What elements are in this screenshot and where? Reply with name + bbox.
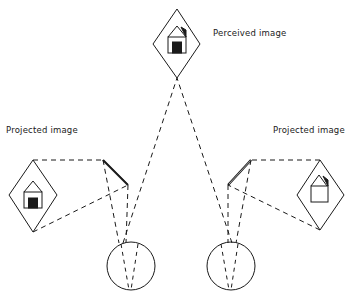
- right-eye: [207, 242, 255, 290]
- stereoscope-diagram: [0, 0, 351, 297]
- left-projected-image-label: Projected image: [6, 125, 78, 135]
- right-diamond: [297, 160, 344, 230]
- light-paths: [33, 78, 320, 243]
- left-house-icon: [24, 181, 42, 208]
- perceived-image: [153, 9, 200, 78]
- perceived-house-icon: [168, 26, 186, 53]
- left-eye: [107, 242, 155, 290]
- perceived-image-label: Perceived image: [213, 28, 286, 38]
- left-projected-image: [9, 160, 57, 232]
- right-projected-image: [297, 160, 344, 230]
- right-mirror: [228, 160, 252, 186]
- left-diamond: [9, 160, 57, 232]
- right-house-icon: [311, 175, 328, 202]
- right-projected-image-label: Projected image: [273, 125, 345, 135]
